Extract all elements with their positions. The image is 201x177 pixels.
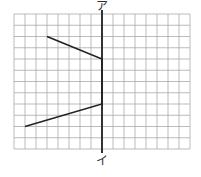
grid-diagram xyxy=(0,0,201,177)
axis-top-label: ア xyxy=(96,0,108,12)
axis-bottom-label: イ xyxy=(96,155,108,167)
